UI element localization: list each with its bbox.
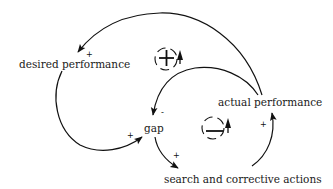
polarity-desired-to-gap: +: [127, 131, 134, 140]
polarity-gap-to-search: +: [173, 151, 180, 160]
node-actual-performance: actual performance: [218, 96, 322, 108]
node-search-and-corrective-actions: search and corrective actions: [164, 173, 322, 185]
loop-circle-icon: [202, 117, 224, 139]
polarity-search-to-actual: +: [260, 120, 267, 129]
polarity-actual-to-gap: -: [161, 108, 164, 117]
causal-loop-diagram: + + - + + desired performance actual per…: [0, 0, 333, 189]
link-actual-to-desired: [78, 13, 262, 95]
node-desired-performance: desired performance: [19, 58, 130, 70]
node-gap: gap: [144, 122, 164, 134]
reinforcing-loop-indicator: [155, 48, 183, 70]
balancing-loop-indicator: [202, 117, 231, 139]
